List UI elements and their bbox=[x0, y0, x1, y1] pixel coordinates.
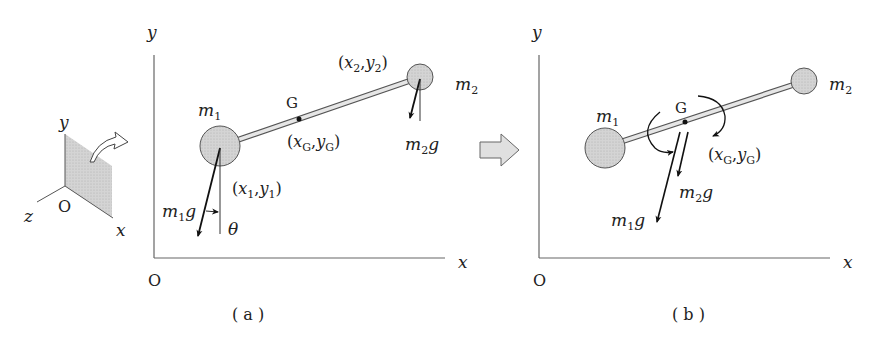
a-caption: ( a ) bbox=[232, 305, 264, 324]
theta-arc-arrow bbox=[206, 211, 218, 212]
b-x-label: x bbox=[843, 252, 853, 272]
a-m2-label: m2 bbox=[455, 74, 478, 97]
b-center-of-mass bbox=[683, 120, 688, 125]
a-force-1-label: m1g bbox=[162, 201, 196, 224]
b-force-1-label: m1g bbox=[611, 210, 645, 233]
b-origin-label: O bbox=[533, 271, 546, 290]
transition-arrow-icon bbox=[480, 134, 519, 166]
inset-z-label: z bbox=[23, 206, 34, 226]
b-coord-g: (xG,yG) bbox=[708, 145, 761, 167]
b-force-2-arrow bbox=[678, 132, 688, 176]
inset-origin-label: O bbox=[58, 197, 71, 216]
a-x-label: x bbox=[458, 252, 468, 272]
b-mass-1 bbox=[585, 128, 625, 168]
b-m1-label: m1 bbox=[596, 106, 619, 129]
curved-arrow-icon bbox=[90, 132, 128, 162]
b-m2-label: m2 bbox=[829, 74, 852, 97]
a-force-2-label: m2g bbox=[405, 134, 439, 157]
a-coord-1: (x1,y1) bbox=[232, 179, 282, 201]
b-caption: ( b ) bbox=[672, 305, 705, 324]
b-mass-2 bbox=[791, 68, 817, 94]
a-center-of-mass bbox=[297, 117, 302, 122]
b-rod-inner bbox=[605, 82, 802, 147]
a-coord-2: (x2,y2) bbox=[338, 53, 388, 75]
a-coord-g: (xG,yG) bbox=[287, 132, 340, 154]
diagram-canvas: y x z O y x O m1 m2 G (x1,y1) (x2,y2) (x… bbox=[0, 0, 870, 341]
a-y-label: y bbox=[146, 22, 157, 42]
b-y-label: y bbox=[531, 22, 542, 42]
b-force-1-arrow bbox=[657, 132, 680, 222]
panel-b: y x O m1 m2 G (xG,yG) m1g m2g ( b ) bbox=[531, 22, 853, 324]
b-force-2-label: m2g bbox=[679, 182, 713, 205]
inset-axes: y x z O bbox=[23, 112, 128, 240]
a-origin-label: O bbox=[148, 271, 161, 290]
panel-a: y x O m1 m2 G (x1,y1) (x2,y2) (xG,yG) m1… bbox=[146, 22, 478, 324]
theta-label: θ bbox=[228, 219, 238, 239]
a-g-label: G bbox=[286, 94, 298, 112]
inset-x-label: x bbox=[116, 220, 126, 240]
inset-y-label: y bbox=[58, 112, 69, 132]
a-m1-label: m1 bbox=[198, 100, 221, 123]
b-g-label: G bbox=[675, 99, 687, 117]
